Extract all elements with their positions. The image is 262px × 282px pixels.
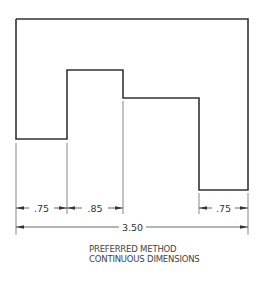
- part-outline: [16, 19, 248, 190]
- dim-label-075-right: .75: [216, 203, 231, 214]
- extension-lines: [16, 101, 248, 235]
- dim-label-085: .85: [87, 203, 102, 214]
- caption: PREFERRED METHOD CONTINUOUS DIMENSIONS: [89, 245, 200, 264]
- dim-label-075-left: .75: [34, 203, 49, 214]
- dim-label-350: 3.50: [122, 222, 143, 233]
- dimension-drawing: .75 .85 .75 3.50: [0, 0, 262, 282]
- caption-line-2: CONTINUOUS DIMENSIONS: [89, 255, 200, 265]
